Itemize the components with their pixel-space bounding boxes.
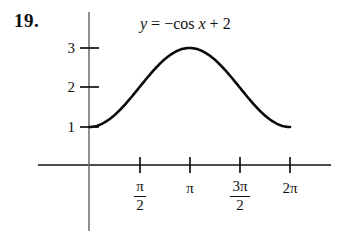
fraction-numerator: 3π: [230, 179, 249, 197]
fraction-denominator: 2: [134, 197, 146, 214]
x-tick-label-3pi-over-2: 3π 2: [224, 179, 256, 214]
x-tick-label-2pi: 2π: [274, 181, 306, 197]
curve-negative-cosine: [89, 48, 290, 127]
y-tick-label-1: 1: [57, 119, 75, 136]
symbol-2pi: 2π: [282, 181, 297, 197]
fraction-denominator: 2: [230, 197, 249, 214]
symbol-pi: π: [186, 181, 194, 197]
x-tick-label-pi: π: [175, 181, 205, 197]
y-tick-label-3: 3: [57, 40, 75, 57]
plot-area: [0, 0, 351, 237]
fraction-pi-over-2: π 2: [134, 179, 146, 214]
fraction-numerator: π: [134, 179, 146, 197]
figure-container: 19. y = −cos x + 2 1 2 3 π 2 π 3π: [0, 0, 351, 237]
x-tick-label-pi-over-2: π 2: [125, 179, 155, 214]
y-tick-label-2: 2: [57, 79, 75, 96]
fraction-3pi-over-2: 3π 2: [230, 179, 249, 214]
